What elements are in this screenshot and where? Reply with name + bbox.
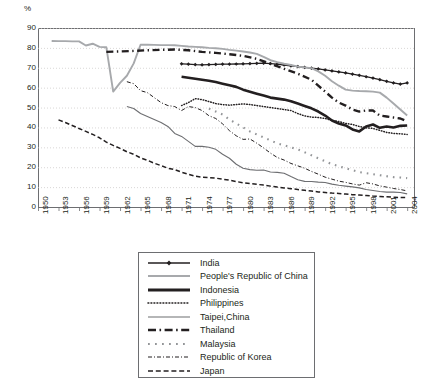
legend-swatch-solid-thin-icon	[147, 311, 191, 323]
legend-item-label: Republic of Korea	[200, 352, 272, 362]
legend-swatch-square-dots-icon	[147, 338, 191, 350]
legend-item[interactable]: Malaysia	[139, 337, 314, 351]
legend-item[interactable]: Philippines	[139, 297, 314, 311]
x-axis-tick-label: 1962	[124, 196, 132, 214]
legend-item[interactable]: Japan	[139, 364, 314, 378]
legend-item-label: Japan	[200, 366, 225, 376]
chart-plot-container: % 0102030405060708090 195019531956195919…	[0, 0, 431, 258]
x-axis-tick-label: 2001	[390, 196, 398, 214]
x-axis-tick-label: 1998	[370, 196, 378, 214]
legend-item[interactable]: Republic of Korea	[139, 351, 314, 365]
chart-figure: % 0102030405060708090 195019531956195919…	[0, 0, 431, 384]
legend-swatch-dotted-icon	[147, 297, 191, 309]
legend-swatch-dash-dot-heavy-icon	[147, 324, 191, 336]
legend-swatch-solid-thick-icon	[147, 284, 191, 296]
legend-item-label: Taipei,China	[200, 312, 250, 322]
legend-item-label: People's Republic of China	[200, 271, 308, 281]
x-axis-tick-label: 1977	[226, 196, 234, 214]
legend-item[interactable]: Thailand	[139, 324, 314, 338]
chart-legend: IndiaPeople's Republic of ChinaIndonesia…	[138, 252, 315, 378]
legend-item-label: Malaysia	[200, 339, 236, 349]
legend-swatch-dash-dot-fine-icon	[147, 351, 191, 363]
x-axis-tick-label: 1950	[42, 196, 50, 214]
x-axis-tick-label: 1983	[267, 196, 275, 214]
legend-item-label: Indonesia	[200, 285, 239, 295]
x-axis-tick-label: 1995	[349, 196, 357, 214]
legend-item-label: Thailand	[200, 325, 235, 335]
legend-swatch-solid-light-icon	[147, 270, 191, 282]
x-axis-tick-label: 1989	[308, 196, 316, 214]
x-axis-tick-label: 1986	[288, 196, 296, 214]
x-axis-tick-label: 2004	[411, 196, 419, 214]
x-axis-tick-label: 1965	[144, 196, 152, 214]
x-axis-tick-label: 1974	[206, 196, 214, 214]
x-axis-tick-label: 1956	[83, 196, 91, 214]
legend-item[interactable]: Indonesia	[139, 283, 314, 297]
legend-key-marker	[167, 260, 172, 265]
legend-swatch-dashed-icon	[147, 365, 191, 377]
legend-item[interactable]: Taipei,China	[139, 310, 314, 324]
x-axis-tick-label: 1953	[62, 196, 70, 214]
legend-swatch-line-diamond-icon	[147, 257, 191, 269]
legend-item[interactable]: People's Republic of China	[139, 270, 314, 284]
x-axis-tick-label: 1992	[329, 196, 337, 214]
x-axis-tick-label: 1971	[185, 196, 193, 214]
x-axis-tick-label: 1968	[165, 196, 173, 214]
legend-item-label: Philippines	[200, 298, 244, 308]
x-axis-tick-label: 1980	[247, 196, 255, 214]
x-axis-tick-labels: 1950195319561959196219651968197119741977…	[0, 0, 431, 258]
legend-item-list: IndiaPeople's Republic of ChinaIndonesia…	[139, 256, 314, 378]
legend-item[interactable]: India	[139, 256, 314, 270]
x-axis-tick-label: 1959	[103, 196, 111, 214]
legend-item-label: India	[200, 258, 220, 268]
